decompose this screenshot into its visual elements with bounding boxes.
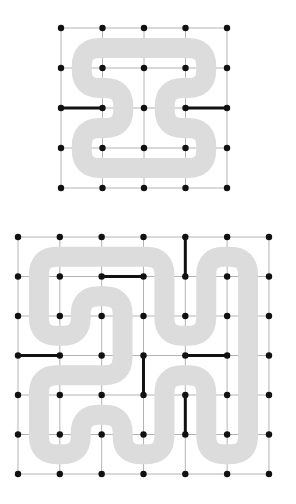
grid-dot — [266, 471, 272, 477]
grid-dot — [224, 471, 230, 477]
grid-dot — [141, 25, 147, 31]
grid-dot — [15, 431, 21, 437]
grid-dot — [224, 105, 230, 111]
grid-dot — [224, 185, 230, 191]
grid-dot — [182, 471, 188, 477]
grid-dot — [57, 431, 63, 437]
grid-dot — [98, 392, 104, 398]
grid-dot — [98, 431, 104, 437]
grid-dot — [224, 392, 230, 398]
grid-dot — [98, 273, 104, 279]
grid-dot — [141, 65, 147, 71]
grid-dot — [99, 65, 105, 71]
grid-dot — [15, 313, 21, 319]
grid-dot — [58, 105, 64, 111]
grid-dot — [224, 352, 230, 358]
grid-dot — [15, 352, 21, 358]
grid-dot — [266, 273, 272, 279]
grid-dot — [140, 471, 146, 477]
grid-dot — [141, 185, 147, 191]
grid-dot — [266, 234, 272, 240]
grid-dot — [266, 392, 272, 398]
grid-dot — [182, 352, 188, 358]
grid-dot — [182, 185, 188, 191]
grid-dot — [224, 313, 230, 319]
grid-dot — [98, 471, 104, 477]
grid-dot — [182, 105, 188, 111]
grid-dot — [58, 185, 64, 191]
grid-dot — [15, 273, 21, 279]
grid-dot — [182, 145, 188, 151]
grid-dot — [224, 145, 230, 151]
grid-dot — [99, 145, 105, 151]
grid-dot — [57, 313, 63, 319]
large-grid-diagram — [15, 234, 272, 477]
grid-dot — [57, 234, 63, 240]
grid-dot — [99, 185, 105, 191]
grid-loop-diagrams — [0, 0, 296, 504]
grid-dot — [224, 234, 230, 240]
grid-dot — [99, 25, 105, 31]
grid-dot — [15, 234, 21, 240]
grid-dot — [182, 273, 188, 279]
grid-dot — [98, 234, 104, 240]
grid-dot — [57, 273, 63, 279]
grid-dot — [58, 65, 64, 71]
grid-dot — [141, 105, 147, 111]
grid-dot — [140, 313, 146, 319]
grid-dot — [57, 392, 63, 398]
grid-dot — [182, 431, 188, 437]
grid-dot — [140, 234, 146, 240]
grid-dot — [98, 313, 104, 319]
grid-dot — [182, 234, 188, 240]
grid-dot — [224, 65, 230, 71]
grid-dot — [15, 392, 21, 398]
grid-dot — [57, 352, 63, 358]
grid-dot — [140, 392, 146, 398]
grid-dot — [140, 431, 146, 437]
grid-dot — [140, 273, 146, 279]
grid-dot — [182, 25, 188, 31]
grid-dot — [266, 352, 272, 358]
grid-dot — [224, 25, 230, 31]
grid-dot — [15, 471, 21, 477]
grid-dot — [58, 145, 64, 151]
grid-dot — [98, 352, 104, 358]
grid-dot — [141, 145, 147, 151]
grid-dot — [182, 65, 188, 71]
grid-dot — [57, 471, 63, 477]
grid-dot — [266, 431, 272, 437]
grid-dot — [224, 273, 230, 279]
grid-dot — [224, 431, 230, 437]
grid-dot — [140, 352, 146, 358]
grid-dot — [99, 105, 105, 111]
small-grid-diagram — [58, 25, 230, 191]
grid-dot — [58, 25, 64, 31]
grid-dot — [266, 313, 272, 319]
grid-dot — [182, 313, 188, 319]
grid-dot — [182, 392, 188, 398]
